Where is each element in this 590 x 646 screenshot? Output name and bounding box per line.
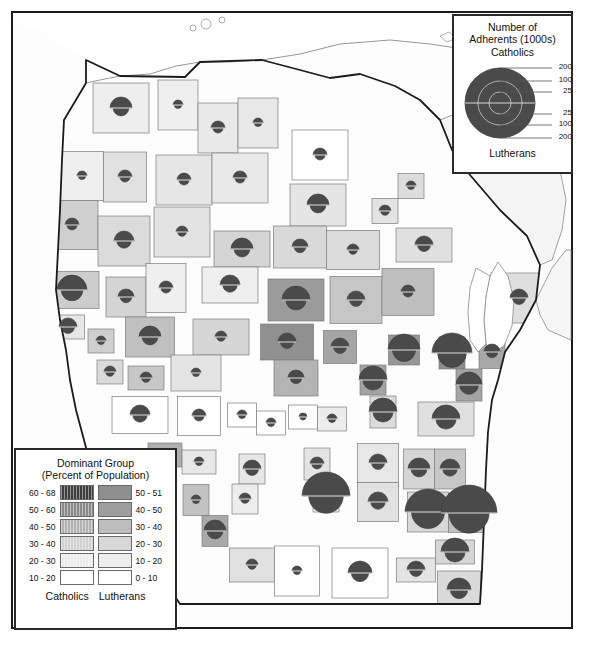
size-tick-top-100: 100 — [544, 75, 572, 84]
class-legend-swatch-grid: 60 - 6850 - 5150 - 6040 - 5040 - 5030 - … — [16, 485, 175, 585]
county-symbol — [299, 413, 307, 420]
size-legend-rings: 200 100 25 25 100 200 — [454, 59, 571, 147]
lutheran-half-symbol — [238, 415, 245, 419]
lutheran-half-symbol — [78, 176, 85, 180]
class-legend-panel: Dominant Group (Percent of Population) 6… — [14, 448, 177, 630]
class-legend-swatch-catholic-5 — [60, 570, 94, 585]
class-legend-swatch-lutheran-1 — [98, 502, 132, 517]
class-legend-swatch-catholic-4 — [60, 553, 94, 568]
class-legend-swatch-catholic-3 — [60, 536, 94, 551]
class-legend-swatch-lutheran-4 — [98, 553, 132, 568]
class-legend-swatch-lutheran-0 — [98, 485, 132, 500]
lutheran-half-symbol — [192, 373, 199, 377]
size-legend-title-line2: Adherents (1000s) — [454, 33, 571, 45]
map-figure: Number of Adherents (1000s) Catholics 20… — [0, 0, 590, 646]
class-legend-right-label: Lutherans — [99, 590, 146, 602]
class-legend-right-label-1: 40 - 50 — [136, 505, 166, 515]
class-legend-right-label-3: 20 - 30 — [136, 539, 166, 549]
lutheran-half-symbol — [174, 105, 181, 109]
class-legend-right-label-2: 30 - 40 — [136, 522, 166, 532]
green-bay-water — [468, 262, 514, 352]
class-legend-left-label-0: 60 - 68 — [26, 488, 56, 498]
size-legend-title-line1: Number of — [454, 21, 571, 33]
class-legend-title-line1: Dominant Group — [16, 457, 175, 469]
class-legend-left-label-2: 40 - 50 — [26, 522, 56, 532]
class-legend-right-label-5: 0 - 10 — [136, 573, 166, 583]
class-legend-left-label-4: 20 - 30 — [26, 556, 56, 566]
size-legend-panel: Number of Adherents (1000s) Catholics 20… — [452, 14, 573, 174]
class-legend-swatch-lutheran-3 — [98, 536, 132, 551]
class-legend-title-line2: (Percent of Population) — [16, 469, 175, 481]
class-legend-swatch-catholic-2 — [60, 519, 94, 534]
size-tick-top-25: 25 — [544, 86, 572, 95]
size-legend-top-label: Catholics — [454, 46, 571, 58]
lutheran-half-symbol — [192, 500, 199, 504]
class-legend-left-label: Catholics — [46, 590, 89, 602]
class-legend-swatch-catholic-0 — [60, 485, 94, 500]
lutheran-half-symbol — [195, 462, 202, 466]
class-legend-left-label-1: 50 - 60 — [26, 505, 56, 515]
size-tick-bottom-100: 100 — [544, 119, 572, 128]
class-legend-right-label-0: 50 - 51 — [136, 488, 166, 498]
class-legend-swatch-catholic-1 — [60, 502, 94, 517]
class-legend-left-label-3: 30 - 40 — [26, 539, 56, 549]
class-legend-right-label-4: 10 - 20 — [136, 556, 166, 566]
lutheran-half-symbol — [293, 571, 300, 575]
class-legend-swatch-lutheran-2 — [98, 519, 132, 534]
size-tick-top-200: 200 — [544, 62, 572, 71]
class-legend-left-label-5: 10 - 20 — [26, 573, 56, 583]
size-tick-bottom-25: 25 — [544, 108, 572, 117]
lutheran-half-symbol — [254, 123, 261, 127]
size-legend-bottom-label: Lutherans — [454, 147, 571, 159]
lutheran-half-symbol — [328, 419, 335, 423]
size-tick-bottom-200: 200 — [544, 132, 572, 141]
class-legend-swatch-lutheran-5 — [98, 570, 132, 585]
